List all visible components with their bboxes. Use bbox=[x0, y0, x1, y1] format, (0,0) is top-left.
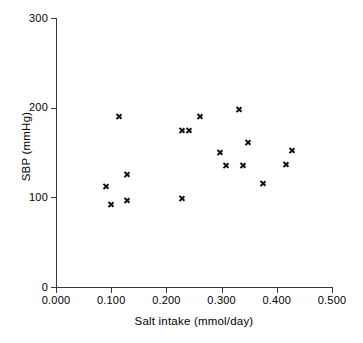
data-point bbox=[123, 171, 130, 178]
y-tick-100 bbox=[51, 197, 57, 198]
data-point bbox=[185, 127, 192, 134]
y-tick-label-0: 0 bbox=[14, 282, 48, 293]
x-tick-0.400 bbox=[277, 287, 278, 293]
x-tick-label-0.200: 0.200 bbox=[144, 295, 188, 306]
y-tick-label-wrap: 0 bbox=[10, 282, 48, 293]
y-tick-label-300: 300 bbox=[14, 13, 48, 24]
y-axis-title: SBP (mmHg) bbox=[20, 77, 33, 217]
data-point bbox=[115, 113, 122, 120]
x-tick-label-0.400: 0.400 bbox=[255, 295, 299, 306]
y-axis-line bbox=[56, 18, 57, 287]
x-tick-0.300 bbox=[222, 287, 223, 293]
y-tick-label-wrap: 300 bbox=[10, 13, 48, 24]
x-tick-label-0.000: 0.000 bbox=[34, 295, 78, 306]
x-tick-0.100 bbox=[111, 287, 112, 293]
scatter-plot-figure: 0100200300 0.0000.1000.2000.3000.4000.50… bbox=[0, 0, 363, 343]
data-point bbox=[216, 149, 223, 156]
x-axis-title: Salt intake (mmol/day) bbox=[56, 315, 332, 328]
data-point bbox=[178, 127, 185, 134]
x-tick-0.000 bbox=[56, 287, 57, 293]
data-point bbox=[197, 113, 204, 120]
x-tick-label-0.100: 0.100 bbox=[89, 295, 133, 306]
data-point bbox=[283, 161, 290, 168]
data-point bbox=[178, 195, 185, 202]
data-point bbox=[108, 201, 115, 208]
data-point bbox=[102, 183, 109, 190]
data-point bbox=[239, 162, 246, 169]
x-tick-label-0.300: 0.300 bbox=[200, 295, 244, 306]
x-tick-0.200 bbox=[166, 287, 167, 293]
y-tick-300 bbox=[51, 18, 57, 19]
data-point bbox=[124, 197, 131, 204]
y-tick-200 bbox=[51, 108, 57, 109]
x-tick-0.500 bbox=[332, 287, 333, 293]
plot-area: 0100200300 0.0000.1000.2000.3000.4000.50… bbox=[0, 0, 363, 343]
x-tick-label-0.500: 0.500 bbox=[310, 295, 354, 306]
data-point bbox=[223, 162, 230, 169]
data-point bbox=[289, 147, 296, 154]
data-point bbox=[236, 106, 243, 113]
data-point bbox=[245, 139, 252, 146]
data-point bbox=[260, 180, 267, 187]
x-axis-line bbox=[56, 287, 332, 288]
